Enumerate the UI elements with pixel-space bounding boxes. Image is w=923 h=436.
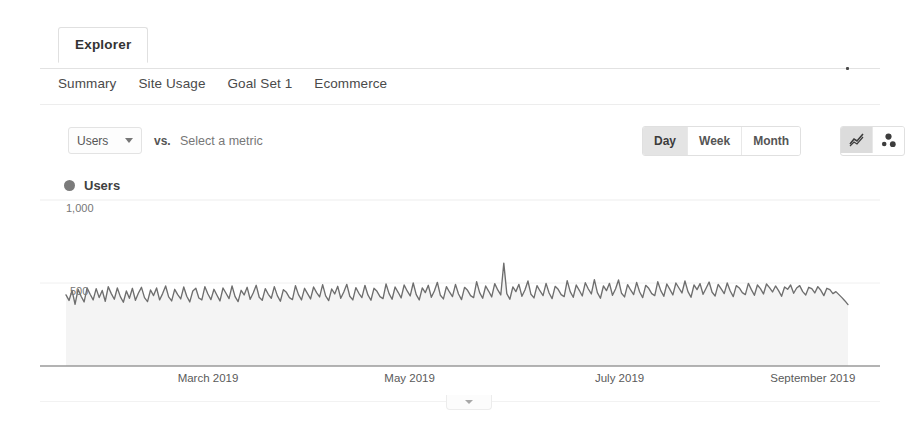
line-chart-icon-button[interactable] [841, 127, 873, 153]
chart-area-fill [66, 263, 848, 366]
collapse-panel-handle[interactable] [446, 395, 492, 410]
chart-type-control [840, 126, 905, 156]
tab-explorer[interactable]: Explorer [58, 27, 148, 63]
chart-controls: Users vs. Select a metric Day Week Month [40, 118, 880, 168]
primary-metric-label: Users [77, 134, 108, 148]
x-axis-label-july: July 2019 [595, 372, 644, 384]
x-axis-label-may: May 2019 [384, 372, 435, 384]
granularity-option-month[interactable]: Month [742, 127, 800, 155]
subnav-item-site-usage[interactable]: Site Usage [138, 76, 205, 91]
granularity-option-day[interactable]: Day [643, 127, 688, 155]
legend-series-label: Users [84, 178, 120, 193]
tab-strip-divider [40, 68, 880, 69]
y-axis-label-1000: 1,000 [66, 202, 94, 214]
granularity-option-week[interactable]: Week [688, 127, 742, 155]
chart-legend: Users [64, 178, 120, 193]
vs-label: vs. [154, 134, 171, 148]
subnav-item-ecommerce[interactable]: Ecommerce [314, 76, 387, 91]
primary-metric-dropdown[interactable]: Users [68, 127, 142, 154]
x-axis: March 2019 May 2019 July 2019 September … [40, 372, 880, 392]
tab-strip: Explorer [40, 27, 880, 69]
divider-artifact-dot [846, 67, 849, 70]
subnav-divider [40, 104, 880, 105]
line-chart-icon [849, 133, 865, 147]
x-axis-label-september: September 2019 [770, 372, 855, 384]
motion-chart-icon-button[interactable] [873, 127, 904, 153]
secondary-metric-selector[interactable]: Select a metric [180, 134, 263, 148]
users-line-chart[interactable] [40, 196, 880, 374]
subnav: Summary Site Usage Goal Set 1 Ecommerce [58, 76, 387, 91]
chevron-down-icon [125, 138, 133, 143]
y-axis-label-500: 500 [70, 285, 88, 297]
analytics-explorer-panel: Explorer Summary Site Usage Goal Set 1 E… [0, 0, 923, 436]
chart-canvas [40, 196, 880, 374]
subnav-item-summary[interactable]: Summary [58, 76, 116, 91]
motion-chart-icon [881, 133, 897, 148]
subnav-item-goal-set-1[interactable]: Goal Set 1 [228, 76, 293, 91]
chevron-down-icon [465, 400, 473, 404]
granularity-segmented-control: Day Week Month [642, 126, 801, 156]
legend-series-dot-icon [64, 180, 75, 191]
x-axis-label-march: March 2019 [178, 372, 239, 384]
